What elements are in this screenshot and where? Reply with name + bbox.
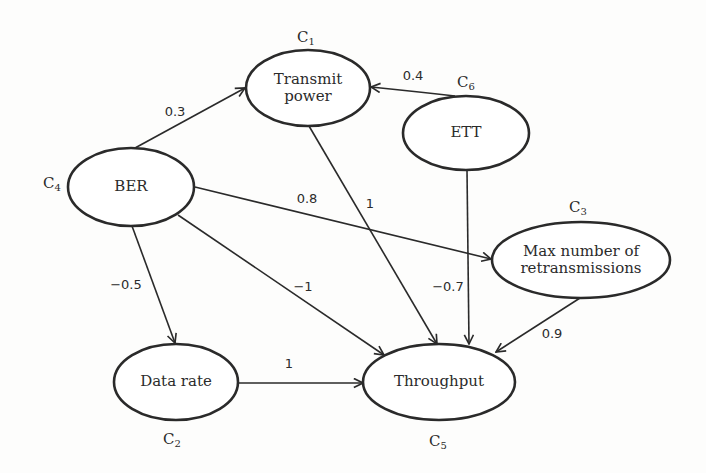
edge-ber-to-throughput [178,215,384,355]
edge-ett-to-throughput [467,170,469,344]
concept-id-c4: C4 [43,175,61,194]
node-label-line: power [274,88,343,105]
concept-id-c1: C1 [297,29,315,48]
concept-id-c5: C5 [429,433,447,452]
node-label-transmit-power: Transmit power [274,71,343,106]
edge-transmit-power-to-throughput [309,126,437,344]
node-label-data-rate: Data rate [140,373,212,390]
concept-id-subscript: 5 [441,440,447,451]
edge-max-retransmissions-to-throughput [496,298,580,352]
node-label-line: Transmit [274,71,343,88]
concept-id-subscript: 1 [309,36,315,47]
concept-id-letter: C [569,198,580,216]
edge-ber-to-max-retransmissions [195,187,491,259]
concept-id-letter: C [163,430,174,448]
concept-id-letter: C [43,174,54,192]
diagram-graphics [0,0,706,473]
concept-id-subscript: 2 [175,438,181,449]
concept-id-subscript: 3 [581,206,587,217]
weight-data-rate-throughput: 1 [285,357,293,372]
weight-max-retransmissions-throughput: 0.9 [542,327,563,342]
node-label-ber: BER [114,178,147,195]
weight-ber-throughput: −1 [293,280,312,295]
node-label-line: retransmissions [520,260,641,277]
concept-id-c3: C3 [569,199,587,218]
concept-id-subscript: 4 [55,182,61,193]
concept-id-letter: C [429,432,440,450]
edge-ett-to-transmit-power [371,87,455,96]
concept-id-letter: C [297,28,308,46]
node-label-ett: ETT [450,124,481,141]
node-label-max-retransmissions: Max number of retransmissions [520,243,641,278]
node-label-line: Max number of [520,243,641,260]
weight-ett-transmit-power: 0.4 [403,69,424,84]
concept-id-c2: C2 [163,431,181,450]
weight-ber-max-retransmissions: 0.8 [297,192,318,207]
concept-id-subscript: 6 [469,81,475,92]
concept-id-c6: C6 [457,74,475,93]
edge-ber-to-transmit-power [135,88,245,148]
concept-id-letter: C [457,73,468,91]
weight-ett-throughput: −0.7 [432,280,464,295]
node-label-throughput: Throughput [394,373,484,390]
weight-transmit-power-throughput: 1 [366,197,374,212]
weight-ber-data-rate: −0.5 [110,278,142,293]
weight-ber-transmit-power: 0.3 [165,105,186,120]
fcm-diagram: Transmit power Data rate Max number of r… [0,0,706,473]
